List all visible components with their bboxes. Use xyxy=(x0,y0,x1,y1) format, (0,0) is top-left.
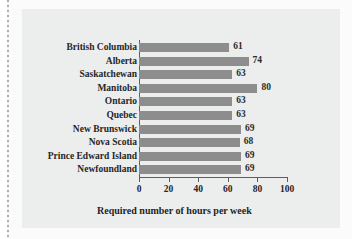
bar-value-label: 80 xyxy=(261,81,271,94)
bar xyxy=(139,152,241,161)
page-margin-left xyxy=(0,0,7,239)
bar-value-label: 69 xyxy=(245,122,255,135)
bar xyxy=(139,43,229,52)
x-axis-tick-mark xyxy=(257,178,258,182)
bar-value-label: 68 xyxy=(244,135,254,148)
category-label: Manitoba xyxy=(97,82,137,96)
x-axis-tick-label: 20 xyxy=(154,183,184,195)
bar-row: 69 xyxy=(139,123,287,137)
category-label: Alberta xyxy=(106,55,137,69)
x-axis-tick-mark xyxy=(287,178,288,182)
x-axis-tick-label: 40 xyxy=(183,183,213,195)
bar-row: 69 xyxy=(139,150,287,164)
bar-row: 69 xyxy=(139,163,287,177)
bar xyxy=(139,111,232,120)
x-axis-tick-mark xyxy=(139,178,140,182)
bar-row: 63 xyxy=(139,109,287,123)
x-axis-tick-mark xyxy=(198,178,199,182)
x-axis-tick-mark xyxy=(169,178,170,182)
bar-row: 63 xyxy=(139,95,287,109)
bar-value-label: 61 xyxy=(233,40,243,53)
page-margin-bottom xyxy=(9,228,352,239)
category-label: New Brunswick xyxy=(73,123,137,137)
x-axis-tick-label: 0 xyxy=(124,183,154,195)
x-axis-tick-mark xyxy=(228,178,229,182)
page-margin-top xyxy=(9,0,352,9)
category-label: Ontario xyxy=(105,95,137,109)
bar xyxy=(139,84,257,93)
figure-image: British ColumbiaAlbertaSaskatchewanManit… xyxy=(0,0,352,239)
x-axis-title: Required number of hours per week xyxy=(97,205,246,216)
bar xyxy=(139,57,249,66)
bar xyxy=(139,125,241,134)
bar-row: 61 xyxy=(139,41,287,55)
bar xyxy=(139,97,232,106)
category-label: Saskatchewan xyxy=(79,68,137,82)
category-label: Quebec xyxy=(106,109,137,123)
plot-area: 61746380636369686969 xyxy=(139,41,287,177)
category-label: Nova Scotia xyxy=(89,136,137,150)
category-label: Newfoundland xyxy=(77,163,137,177)
x-axis-tick-label: 100 xyxy=(272,183,302,195)
bar-value-label: 74 xyxy=(253,54,263,67)
bar-row: 74 xyxy=(139,55,287,69)
bar-row: 63 xyxy=(139,68,287,82)
bar xyxy=(139,70,232,79)
bar-value-label: 69 xyxy=(245,162,255,175)
bar-row: 68 xyxy=(139,136,287,150)
bar-value-label: 69 xyxy=(245,149,255,162)
bar-row: 80 xyxy=(139,82,287,96)
bar-value-label: 63 xyxy=(236,94,246,107)
bar-value-label: 63 xyxy=(236,67,246,80)
page-margin-inner-left xyxy=(9,0,22,239)
bar xyxy=(139,165,241,174)
category-label: British Columbia xyxy=(67,41,137,55)
x-axis-line xyxy=(139,177,288,178)
bar-value-label: 63 xyxy=(236,108,246,121)
category-axis-labels: British ColumbiaAlbertaSaskatchewanManit… xyxy=(24,41,137,177)
x-axis-tick-label: 60 xyxy=(213,183,243,195)
bar xyxy=(139,138,240,147)
category-label: Prince Edward Island xyxy=(48,150,137,164)
page-margin-right xyxy=(340,0,352,239)
x-axis-tick-label: 80 xyxy=(242,183,272,195)
